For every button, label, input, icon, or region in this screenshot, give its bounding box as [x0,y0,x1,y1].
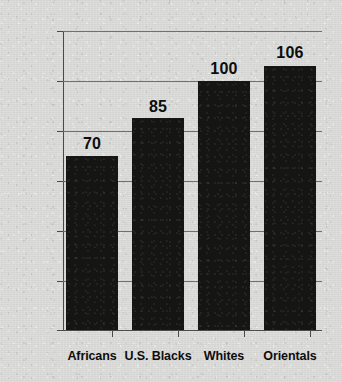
y-tick-mark-0 [57,330,63,331]
plot-area [63,31,322,330]
bar-africans[interactable] [66,156,118,330]
bar-whites[interactable] [198,81,250,330]
category-label-us-blacks: U.S. Blacks [125,349,192,363]
bar-us-blacks[interactable] [132,118,184,330]
category-label-africans: Africans [67,349,116,363]
bar-chart-figure: 120 100 80 60 40 20 0 70 85 100 106 Afri… [0,0,342,382]
x-tick-mark-4 [310,330,311,337]
category-label-orientals: Orientals [263,349,316,363]
category-label-whites: Whites [204,349,244,363]
x-tick-mark-3 [244,330,245,337]
x-tick-mark-1 [112,330,113,337]
gridline-120 [63,31,322,32]
x-tick-mark-2 [178,330,179,337]
bar-value-label-whites: 100 [210,60,237,78]
bar-orientals[interactable] [264,66,316,330]
bar-value-label-orientals: 106 [276,44,303,62]
bar-value-label-us-blacks: 85 [149,98,167,116]
bar-value-label-africans: 70 [83,135,101,153]
x-axis-line [63,330,322,331]
